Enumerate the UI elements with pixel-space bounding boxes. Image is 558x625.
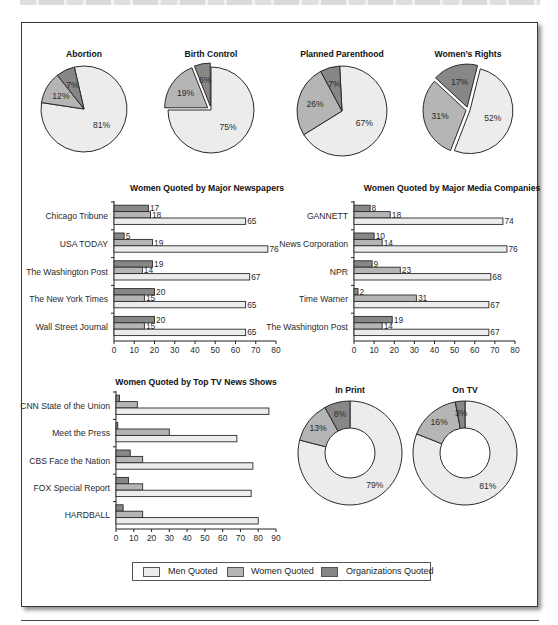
category-label: CNN State of the Union: [20, 401, 110, 411]
bar-org: [116, 395, 120, 401]
x-tick-label: 80: [271, 345, 281, 355]
data-label: 65: [247, 327, 257, 337]
category-label: Time Warner: [299, 294, 348, 304]
category-label: GANNETT: [307, 211, 349, 221]
slice-label: 67%: [356, 118, 374, 128]
slice-label: 31%: [431, 111, 449, 121]
pie-chart-planned-parenthood: Planned Parenthood67%26%7%: [297, 49, 387, 156]
x-tick-label: 30: [165, 533, 175, 543]
bar-org: [116, 450, 130, 456]
x-tick-label: 50: [200, 533, 210, 543]
slice-label: 16%: [431, 417, 449, 427]
data-label: 19: [154, 259, 164, 269]
chart-title: Birth Control: [185, 49, 238, 59]
bar-org: [114, 233, 124, 239]
x-tick-label: 80: [254, 533, 264, 543]
bar-women: [354, 239, 382, 245]
chart-title: Planned Parenthood: [300, 49, 384, 59]
bar-women: [114, 212, 150, 218]
bar-chart-women-quoted-by-major-media-companies: Women Quoted by Major Media Companies010…: [266, 183, 540, 355]
bar-men: [114, 246, 268, 252]
bar-org: [354, 205, 370, 211]
x-tick-label: 60: [218, 533, 228, 543]
x-tick-label: 30: [410, 345, 420, 355]
data-label: 20: [156, 315, 166, 325]
slice-label: 13%: [309, 423, 327, 433]
legend-label-women: Women Quoted: [251, 566, 314, 576]
bar-women: [116, 429, 169, 435]
chart-title: In Print: [335, 385, 365, 395]
bar-women: [354, 323, 382, 329]
bar-org: [116, 477, 128, 483]
legend-swatch-women: [227, 567, 244, 577]
legend-label-organizations: Organizations Quoted: [346, 566, 434, 576]
bar-women: [354, 267, 400, 273]
bar-men: [116, 490, 251, 496]
data-label: 76: [508, 244, 518, 254]
bar-women: [116, 456, 143, 462]
bar-women: [354, 295, 416, 301]
data-label: 65: [247, 300, 257, 310]
bar-chart-women-quoted-by-top-tv-news-shows: Women Quoted by Top TV News Shows0102030…: [20, 377, 281, 543]
chart-title: Women Quoted by Major Media Companies: [364, 183, 541, 193]
legend-swatch-men: [143, 567, 160, 577]
category-label: News Corporation: [279, 239, 348, 249]
x-tick-label: 40: [190, 345, 200, 355]
bar-org: [354, 261, 372, 267]
x-tick-label: 40: [182, 533, 192, 543]
bar-men: [354, 329, 489, 335]
x-tick-label: 60: [231, 345, 241, 355]
chart-title: Women Quoted by Top TV News Shows: [115, 377, 277, 387]
bar-men: [116, 463, 253, 469]
bar-men: [354, 274, 491, 280]
bar-men: [114, 329, 246, 335]
x-tick-label: 70: [490, 345, 500, 355]
slice-label: 75%: [219, 122, 237, 132]
slice-label: 81%: [479, 481, 497, 491]
x-tick-label: 20: [390, 345, 400, 355]
bar-women: [114, 323, 144, 329]
chart-title: Abortion: [66, 49, 102, 59]
charts-canvas: Abortion81%12%7%Birth Control75%19%6%Pla…: [0, 0, 558, 625]
x-tick-label: 10: [129, 533, 139, 543]
category-label: Meet the Press: [52, 428, 110, 438]
chart-title: Women’s Rights: [435, 49, 502, 59]
data-label: 67: [251, 272, 261, 282]
bar-men: [116, 518, 258, 524]
data-label: 76: [269, 244, 279, 254]
x-tick-label: 20: [150, 345, 160, 355]
category-label: CBS Face the Nation: [29, 456, 110, 466]
data-label: 20: [156, 287, 166, 297]
x-tick-label: 80: [510, 345, 520, 355]
pie-chart-birth-control: Birth Control75%19%6%: [165, 49, 254, 153]
slice-label: 81%: [93, 120, 111, 130]
slice-label: 12%: [52, 91, 70, 101]
donut-chart-on-tv: On TV81%16%3%: [413, 385, 517, 505]
category-label: Wall Street Journal: [36, 322, 108, 332]
bar-women: [116, 511, 143, 517]
bar-women: [354, 212, 390, 218]
chart-title: On TV: [452, 385, 478, 395]
bar-women: [114, 267, 142, 273]
pie-chart-women-s-rights: Women’s Rights52%31%17%: [423, 49, 513, 154]
donut-chart-in-print: In Print79%13%8%: [298, 385, 402, 505]
chart-legend: Men Quoted Women Quoted Organizations Qu…: [132, 562, 431, 581]
x-tick-label: 50: [211, 345, 221, 355]
bar-org: [116, 423, 118, 429]
slice-label: 79%: [366, 480, 384, 490]
legend-swatch-organizations: [321, 567, 338, 577]
x-tick-label: 50: [450, 345, 460, 355]
category-label: USA TODAY: [60, 239, 109, 249]
bar-men: [114, 218, 246, 224]
bar-women: [114, 239, 152, 245]
category-label: HARDBALL: [65, 510, 111, 520]
x-tick-label: 40: [430, 345, 440, 355]
slice-label: 7%: [66, 80, 79, 90]
data-label: 19: [394, 315, 404, 325]
x-tick-label: 70: [251, 345, 261, 355]
data-label: 68: [492, 272, 502, 282]
category-label: NPR: [330, 267, 348, 277]
x-tick-label: 0: [112, 345, 117, 355]
category-label: FOX Special Report: [34, 483, 111, 493]
bar-men: [114, 274, 250, 280]
